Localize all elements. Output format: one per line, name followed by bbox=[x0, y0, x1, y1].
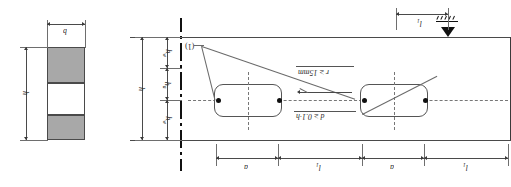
bot-dim-line-3 bbox=[424, 158, 508, 159]
note-leader-arrow-left bbox=[297, 90, 300, 94]
support-hatch-tick bbox=[436, 16, 439, 20]
radius-note-rule bbox=[296, 66, 354, 67]
hdim-ext-2 bbox=[160, 100, 182, 101]
bot-dim-label-l1-1: l1 bbox=[316, 161, 321, 171]
top-dim-label-text: l bbox=[420, 19, 422, 28]
symmetry-axis-segment bbox=[180, 159, 182, 171]
bot-dim-sub: 1 bbox=[316, 162, 319, 168]
opening-left-node-start bbox=[216, 98, 221, 103]
cross-section-view: b h bbox=[0, 0, 130, 187]
bot-dim-sub: 1 bbox=[463, 162, 466, 168]
symmetry-axis-segment bbox=[180, 94, 182, 97]
callout-leader-stub bbox=[194, 45, 204, 46]
top-flange bbox=[47, 47, 85, 83]
bot-dim-text: l bbox=[466, 163, 468, 172]
radius-note-label: r ≥ 15mm bbox=[298, 68, 329, 76]
symmetry-axis-segment bbox=[180, 123, 182, 126]
hdim-label-ha: ha bbox=[161, 82, 171, 89]
depth-note-label: d ≥ 0.1·h bbox=[296, 112, 324, 120]
bot-ext-2 bbox=[362, 144, 363, 166]
bot-dim-text: l bbox=[319, 163, 321, 172]
symmetry-axis-segment bbox=[180, 43, 182, 61]
hdim-ext-3 bbox=[160, 140, 182, 141]
width-arrow-right bbox=[82, 22, 85, 26]
symmetry-axis-segment bbox=[180, 72, 182, 90]
hdim-ext-1 bbox=[160, 68, 182, 69]
web bbox=[47, 83, 85, 115]
support-hatch-tick bbox=[452, 16, 455, 20]
hdim-ext-0 bbox=[160, 37, 182, 38]
hdim-label-sub: w bbox=[162, 53, 168, 57]
bot-ext-0 bbox=[216, 144, 217, 166]
support-hatch-tick bbox=[440, 16, 443, 20]
opening-right-centre-line bbox=[394, 72, 395, 130]
beam-elevation-view: (1) hw ha hw h bbox=[130, 0, 511, 187]
symmetry-axis-segment bbox=[180, 18, 182, 32]
bottom-flange bbox=[47, 115, 85, 140]
height-arrow-top bbox=[24, 47, 28, 50]
top-dim-line bbox=[396, 14, 448, 15]
width-ext-right bbox=[85, 20, 86, 48]
overall-h-arrow-bottom bbox=[140, 137, 144, 140]
width-arrow-left bbox=[47, 22, 50, 26]
hdim-arrow-1b bbox=[165, 68, 169, 71]
width-dim-label: b bbox=[63, 27, 67, 35]
bot-dim-line-1 bbox=[278, 158, 362, 159]
bot-ext-4 bbox=[508, 144, 509, 166]
bot-dim-label-a-1: a bbox=[244, 161, 248, 171]
symmetry-axis-segment bbox=[180, 101, 182, 119]
overall-h-arrow-top bbox=[140, 37, 144, 40]
overall-h-ext-bottom bbox=[135, 140, 163, 141]
top-dim-arrow-left bbox=[396, 12, 399, 16]
top-dim-arrow-right bbox=[445, 12, 448, 16]
bot-dim-line-2 bbox=[362, 158, 424, 159]
width-dim-line bbox=[47, 24, 85, 25]
height-ext-bottom bbox=[20, 140, 48, 141]
symmetry-axis-segment bbox=[180, 152, 182, 155]
top-dim-label: l1 bbox=[417, 17, 422, 27]
hdim-arrow-2b bbox=[165, 100, 169, 103]
hdim-label-hw-top: hw bbox=[162, 49, 172, 57]
opening-right-node-start bbox=[362, 98, 367, 103]
bot-arrow-3b bbox=[505, 156, 508, 160]
hdim-label-hw-bottom: hw bbox=[162, 116, 172, 124]
hdim-label-sub: a bbox=[162, 86, 168, 89]
hdim-label-sub: w bbox=[162, 120, 168, 124]
height-dim-label: h bbox=[21, 91, 29, 95]
bot-dim-label-l1-2: l1 bbox=[463, 161, 468, 171]
bot-arrow-0a bbox=[216, 156, 219, 160]
bot-dim-text: a bbox=[390, 163, 394, 172]
bot-arrow-3a bbox=[424, 156, 427, 160]
support-hatch-tick bbox=[444, 16, 447, 20]
opening-left-centre-line bbox=[248, 72, 249, 130]
hdim-arrow-3 bbox=[165, 137, 169, 140]
beam-top-edge bbox=[130, 37, 511, 38]
bot-ext-1 bbox=[278, 144, 279, 166]
top-dim-label-sub: 1 bbox=[417, 18, 420, 24]
symmetry-axis-segment bbox=[180, 130, 182, 148]
bot-arrow-1a bbox=[278, 156, 281, 160]
bot-ext-3 bbox=[424, 144, 425, 166]
height-arrow-bottom bbox=[24, 137, 28, 140]
opening-right-node-end bbox=[423, 98, 428, 103]
callout-label: (1) bbox=[185, 42, 194, 50]
engineering-drawing: b h bbox=[0, 0, 511, 187]
bot-dim-label-a-2: a bbox=[390, 161, 394, 171]
beam-bottom-edge bbox=[130, 140, 511, 141]
hdim-arrow-0 bbox=[165, 37, 169, 40]
support-hatch-bar bbox=[436, 21, 458, 22]
bot-arrow-2a bbox=[362, 156, 365, 160]
bot-dim-line-0 bbox=[216, 158, 278, 159]
overall-height-label: h bbox=[137, 87, 145, 91]
depth-note-rule bbox=[294, 111, 356, 112]
bot-dim-text: a bbox=[244, 163, 248, 172]
callout-leader-short bbox=[201, 46, 216, 101]
opening-left-node-end bbox=[277, 98, 282, 103]
top-dim-ext-right bbox=[448, 8, 449, 30]
